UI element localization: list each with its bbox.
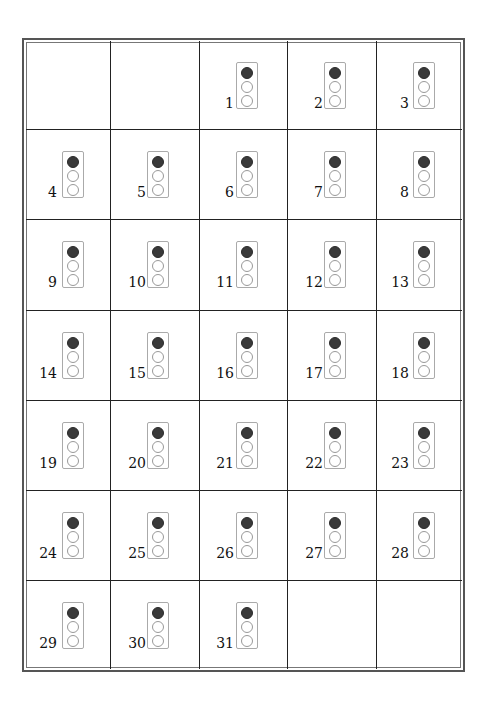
traffic-light-icon[interactable]: [324, 512, 346, 559]
traffic-light-icon[interactable]: [62, 422, 84, 469]
day-cell[interactable]: 28: [377, 491, 462, 581]
top-lamp-icon[interactable]: [241, 246, 253, 258]
day-cell[interactable]: 26: [200, 491, 288, 581]
bottom-lamp-icon[interactable]: [241, 274, 253, 286]
middle-lamp-icon[interactable]: [67, 170, 79, 182]
top-lamp-icon[interactable]: [241, 607, 253, 619]
traffic-light-icon[interactable]: [236, 512, 258, 559]
traffic-light-icon[interactable]: [324, 332, 346, 379]
bottom-lamp-icon[interactable]: [329, 184, 341, 196]
day-cell[interactable]: 12: [288, 220, 377, 311]
day-cell[interactable]: 22: [288, 401, 377, 491]
bottom-lamp-icon[interactable]: [67, 365, 79, 377]
middle-lamp-icon[interactable]: [418, 260, 430, 272]
traffic-light-icon[interactable]: [147, 151, 169, 198]
top-lamp-icon[interactable]: [67, 337, 79, 349]
top-lamp-icon[interactable]: [418, 156, 430, 168]
middle-lamp-icon[interactable]: [152, 531, 164, 543]
middle-lamp-icon[interactable]: [241, 81, 253, 93]
traffic-light-icon[interactable]: [324, 62, 346, 109]
top-lamp-icon[interactable]: [329, 246, 341, 258]
middle-lamp-icon[interactable]: [329, 351, 341, 363]
bottom-lamp-icon[interactable]: [67, 635, 79, 647]
middle-lamp-icon[interactable]: [241, 531, 253, 543]
bottom-lamp-icon[interactable]: [67, 455, 79, 467]
top-lamp-icon[interactable]: [67, 246, 79, 258]
top-lamp-icon[interactable]: [152, 246, 164, 258]
day-cell[interactable]: 3: [377, 41, 462, 130]
middle-lamp-icon[interactable]: [329, 531, 341, 543]
top-lamp-icon[interactable]: [67, 156, 79, 168]
bottom-lamp-icon[interactable]: [418, 545, 430, 557]
bottom-lamp-icon[interactable]: [241, 455, 253, 467]
top-lamp-icon[interactable]: [152, 607, 164, 619]
day-cell[interactable]: 27: [288, 491, 377, 581]
middle-lamp-icon[interactable]: [418, 170, 430, 182]
day-cell[interactable]: 9: [26, 220, 111, 311]
top-lamp-icon[interactable]: [241, 427, 253, 439]
top-lamp-icon[interactable]: [67, 517, 79, 529]
middle-lamp-icon[interactable]: [241, 441, 253, 453]
traffic-light-icon[interactable]: [324, 241, 346, 288]
middle-lamp-icon[interactable]: [67, 441, 79, 453]
day-cell[interactable]: 19: [26, 401, 111, 491]
top-lamp-icon[interactable]: [329, 517, 341, 529]
traffic-light-icon[interactable]: [62, 602, 84, 649]
top-lamp-icon[interactable]: [418, 517, 430, 529]
bottom-lamp-icon[interactable]: [152, 635, 164, 647]
traffic-light-icon[interactable]: [413, 62, 435, 109]
middle-lamp-icon[interactable]: [329, 441, 341, 453]
bottom-lamp-icon[interactable]: [241, 545, 253, 557]
bottom-lamp-icon[interactable]: [418, 274, 430, 286]
traffic-light-icon[interactable]: [413, 422, 435, 469]
middle-lamp-icon[interactable]: [152, 621, 164, 633]
middle-lamp-icon[interactable]: [241, 170, 253, 182]
traffic-light-icon[interactable]: [413, 512, 435, 559]
bottom-lamp-icon[interactable]: [152, 545, 164, 557]
bottom-lamp-icon[interactable]: [152, 365, 164, 377]
bottom-lamp-icon[interactable]: [67, 274, 79, 286]
top-lamp-icon[interactable]: [329, 427, 341, 439]
middle-lamp-icon[interactable]: [152, 441, 164, 453]
middle-lamp-icon[interactable]: [241, 260, 253, 272]
day-cell[interactable]: 14: [26, 311, 111, 401]
bottom-lamp-icon[interactable]: [329, 274, 341, 286]
bottom-lamp-icon[interactable]: [152, 184, 164, 196]
traffic-light-icon[interactable]: [62, 332, 84, 379]
traffic-light-icon[interactable]: [236, 422, 258, 469]
bottom-lamp-icon[interactable]: [241, 184, 253, 196]
bottom-lamp-icon[interactable]: [67, 184, 79, 196]
middle-lamp-icon[interactable]: [418, 81, 430, 93]
traffic-light-icon[interactable]: [236, 602, 258, 649]
middle-lamp-icon[interactable]: [329, 81, 341, 93]
middle-lamp-icon[interactable]: [329, 170, 341, 182]
day-cell[interactable]: 1: [200, 41, 288, 130]
day-cell[interactable]: 24: [26, 491, 111, 581]
top-lamp-icon[interactable]: [418, 246, 430, 258]
traffic-light-icon[interactable]: [62, 512, 84, 559]
traffic-light-icon[interactable]: [147, 512, 169, 559]
top-lamp-icon[interactable]: [418, 67, 430, 79]
traffic-light-icon[interactable]: [413, 151, 435, 198]
middle-lamp-icon[interactable]: [152, 170, 164, 182]
top-lamp-icon[interactable]: [329, 337, 341, 349]
top-lamp-icon[interactable]: [418, 337, 430, 349]
traffic-light-icon[interactable]: [236, 241, 258, 288]
bottom-lamp-icon[interactable]: [418, 455, 430, 467]
day-cell[interactable]: 10: [111, 220, 200, 311]
middle-lamp-icon[interactable]: [67, 351, 79, 363]
top-lamp-icon[interactable]: [329, 156, 341, 168]
bottom-lamp-icon[interactable]: [152, 455, 164, 467]
day-cell[interactable]: 23: [377, 401, 462, 491]
traffic-light-icon[interactable]: [147, 241, 169, 288]
bottom-lamp-icon[interactable]: [329, 95, 341, 107]
day-cell[interactable]: 21: [200, 401, 288, 491]
bottom-lamp-icon[interactable]: [67, 545, 79, 557]
middle-lamp-icon[interactable]: [329, 260, 341, 272]
bottom-lamp-icon[interactable]: [152, 274, 164, 286]
traffic-light-icon[interactable]: [62, 241, 84, 288]
traffic-light-icon[interactable]: [147, 332, 169, 379]
day-cell[interactable]: 15: [111, 311, 200, 401]
day-cell[interactable]: 25: [111, 491, 200, 581]
bottom-lamp-icon[interactable]: [241, 635, 253, 647]
